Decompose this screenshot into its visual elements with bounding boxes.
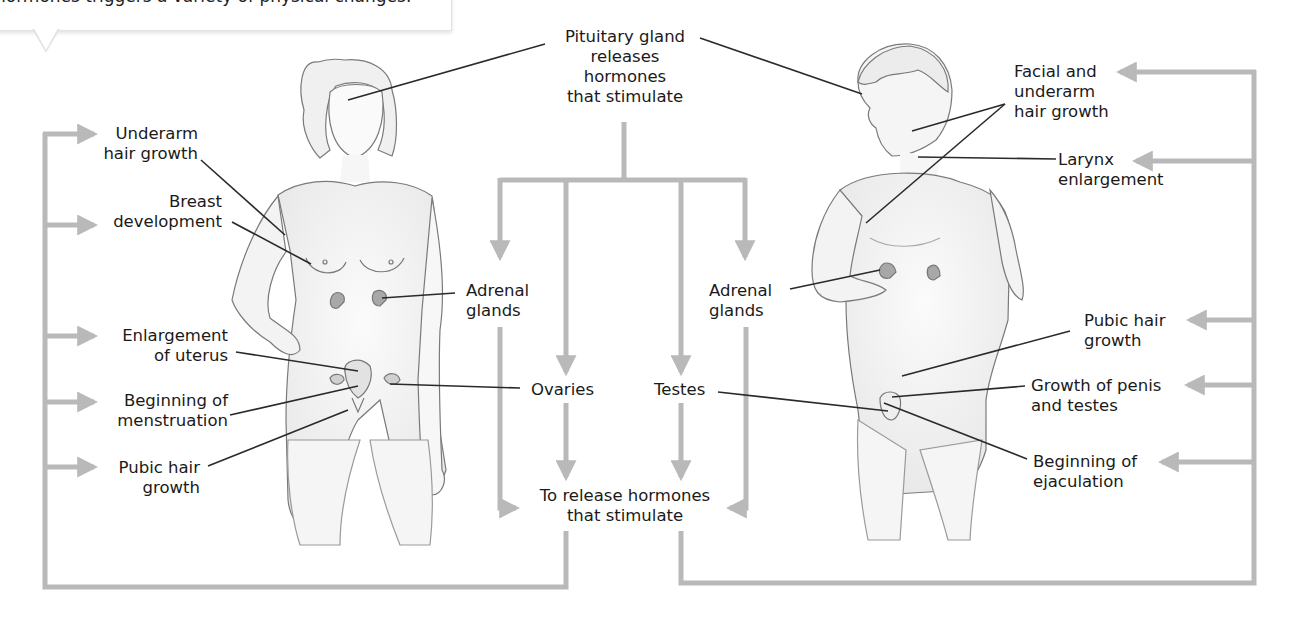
male-ejaculation-label: Beginning of ejaculation (1033, 452, 1137, 492)
label-line: of uterus (98, 346, 228, 366)
female-pubic-hair-label: Pubic hair growth (98, 458, 200, 498)
release-line-2: that stimulate (520, 506, 730, 526)
release-label: To release hormones that stimulate (520, 486, 730, 526)
release-line-1: To release hormones (520, 486, 730, 506)
adrenal-glands-female-label: Adrenal glands (466, 281, 529, 321)
label-line: Pubic hair (98, 458, 200, 478)
label-line: development (98, 212, 222, 232)
pituitary-label: Pituitary gland releases hormones that s… (544, 27, 706, 107)
label-line: hair growth (98, 144, 198, 164)
male-pubic-hair-label: Pubic hair growth (1084, 311, 1165, 351)
label-line: Beginning of (1033, 452, 1137, 472)
female-breast-development-label: Breast development (98, 192, 222, 232)
adrenal-right-line-2: glands (709, 301, 772, 321)
label-line: hair growth (1014, 102, 1109, 122)
label-line: enlargement (1058, 170, 1164, 190)
ovaries-label: Ovaries (531, 380, 594, 400)
label-line: Pubic hair (1084, 311, 1165, 331)
pituitary-line-2: releases (544, 47, 706, 67)
female-figure (232, 59, 446, 545)
adrenal-right-line-1: Adrenal (709, 281, 772, 301)
male-penis-testes-label: Growth of penis and testes (1031, 376, 1161, 416)
female-uterus-label: Enlargement of uterus (98, 326, 228, 366)
adrenal-left-line-1: Adrenal (466, 281, 529, 301)
label-line: Larynx (1058, 150, 1164, 170)
label-line: Facial and (1014, 62, 1109, 82)
male-larynx-label: Larynx enlargement (1058, 150, 1164, 190)
pituitary-line-3: hormones (544, 67, 706, 87)
testes-label: Testes (654, 380, 705, 400)
female-underarm-hair-label: Underarm hair growth (98, 124, 198, 164)
adrenal-glands-male-label: Adrenal glands (709, 281, 772, 321)
male-facial-underarm-hair-label: Facial and underarm hair growth (1014, 62, 1109, 122)
label-line: Breast (98, 192, 222, 212)
female-menstruation-label: Beginning of menstruation (98, 391, 228, 431)
adrenal-left-line-2: glands (466, 301, 529, 321)
label-line: underarm (1014, 82, 1109, 102)
label-line: Beginning of (98, 391, 228, 411)
pituitary-line-4: that stimulate (544, 87, 706, 107)
label-line: Underarm (98, 124, 198, 144)
label-line: ejaculation (1033, 472, 1137, 492)
pituitary-line-1: Pituitary gland (544, 27, 706, 47)
label-line: Enlargement (98, 326, 228, 346)
label-line: growth (1084, 331, 1165, 351)
label-line: menstruation (98, 411, 228, 431)
male-figure (812, 44, 1023, 540)
label-line: and testes (1031, 396, 1161, 416)
label-line: Growth of penis (1031, 376, 1161, 396)
label-line: growth (98, 478, 200, 498)
